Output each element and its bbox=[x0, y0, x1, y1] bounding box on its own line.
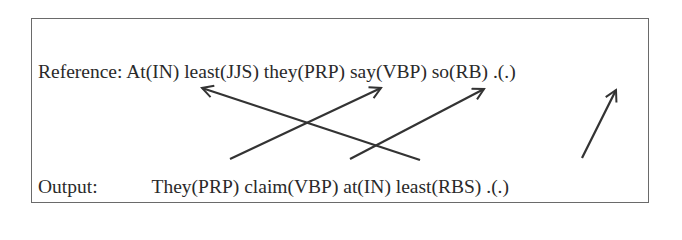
output-label: Output: bbox=[38, 177, 147, 197]
ref-token-so: so(RB) bbox=[432, 61, 488, 82]
out-token-they: They(PRP) bbox=[152, 176, 240, 197]
ref-token-they: they(PRP) bbox=[264, 61, 345, 82]
ref-token-least: least(JJS) bbox=[184, 61, 259, 82]
ref-token-at: At(IN) bbox=[126, 61, 179, 82]
out-token-claim: claim(VBP) bbox=[244, 176, 338, 197]
reference-label: Reference: bbox=[38, 62, 122, 82]
ref-token-period: .(.) bbox=[493, 61, 516, 82]
out-token-at: at(IN) bbox=[343, 176, 391, 197]
out-token-least: least(RBS) bbox=[396, 176, 482, 197]
ref-token-say: say(VBP) bbox=[350, 61, 427, 82]
reference-line: Reference: At(IN) least(JJS) they(PRP) s… bbox=[38, 62, 516, 82]
out-token-period: .(.) bbox=[486, 176, 509, 197]
output-line: Output: They(PRP) claim(VBP) at(IN) leas… bbox=[38, 177, 509, 197]
